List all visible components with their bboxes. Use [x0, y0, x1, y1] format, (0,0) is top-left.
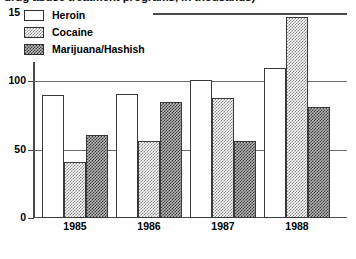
- y-tick-50: [28, 150, 34, 151]
- bar-marijuana-1988: [308, 107, 330, 218]
- legend-swatch-marijuana-icon: [24, 44, 44, 55]
- x-axis-label-1987: 1987: [211, 220, 234, 232]
- legend-item-cocaine: Cocaine: [24, 24, 145, 41]
- bar-marijuana-1987: [234, 141, 256, 218]
- chart-legend: HeroinCocaineMarijuana/Hashish: [20, 3, 153, 62]
- bar-marijuana-1985: [86, 135, 108, 218]
- y-axis-label-100: 100: [8, 74, 26, 86]
- bar-heroin-1985: [42, 95, 64, 218]
- bar-heroin-1986: [116, 94, 138, 218]
- bar-cocaine-1985: [64, 162, 86, 218]
- bar-cocaine-1988: [286, 17, 308, 218]
- legend-label-heroin: Heroin: [52, 10, 85, 21]
- x-axis-label-1986: 1986: [137, 220, 160, 232]
- bar-marijuana-1986: [160, 102, 182, 218]
- y-axis-label-50: 50: [14, 143, 26, 155]
- chart-figure: drug abuse treatment programs, in thousa…: [0, 0, 356, 259]
- x-axis-label-1988: 1988: [285, 220, 308, 232]
- bar-heroin-1987: [190, 80, 212, 218]
- bar-cocaine-1986: [138, 141, 160, 218]
- y-tick-0: [28, 218, 34, 219]
- bar-heroin-1988: [264, 68, 286, 218]
- legend-label-marijuana: Marijuana/Hashish: [52, 44, 145, 55]
- legend-item-marijuana: Marijuana/Hashish: [24, 41, 145, 58]
- x-axis-label-1985: 1985: [63, 220, 86, 232]
- y-tick-100: [28, 81, 34, 82]
- legend-label-cocaine: Cocaine: [52, 27, 93, 38]
- legend-swatch-heroin-icon: [24, 10, 44, 21]
- bar-cocaine-1987: [212, 98, 234, 218]
- legend-swatch-cocaine-icon: [24, 27, 44, 38]
- y-axis-label-0: 0: [20, 211, 26, 223]
- legend-item-heroin: Heroin: [24, 7, 145, 24]
